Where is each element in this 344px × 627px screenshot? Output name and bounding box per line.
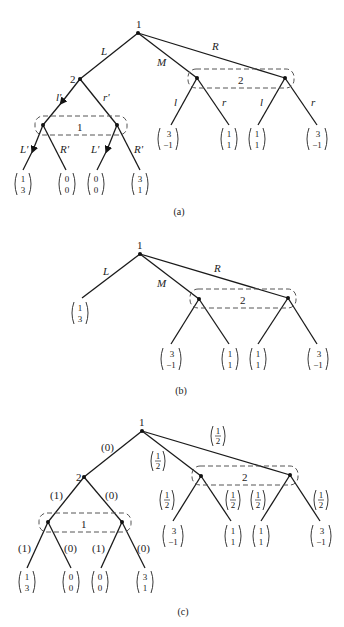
root-player-label: 1 [136, 18, 142, 30]
node-after-l-prime [46, 520, 50, 524]
svg-text:−1: −1 [312, 140, 322, 150]
svg-text:1: 1 [255, 129, 260, 139]
payoff-vector: 1 1 [221, 128, 237, 150]
node-after-l-prime [41, 123, 45, 127]
prob-r-prime: (0) [105, 489, 118, 502]
action-L-prime-2: L' [90, 143, 100, 155]
svg-text:2: 2 [216, 436, 221, 446]
prob-R: 1 2 [211, 426, 225, 446]
svg-text:1: 1 [231, 526, 236, 536]
edge-L [84, 431, 142, 477]
svg-text:0: 0 [65, 174, 70, 184]
svg-text:2: 2 [319, 500, 324, 510]
svg-text:1: 1 [25, 572, 30, 582]
edge-L [82, 254, 140, 298]
action-L: L [102, 265, 109, 277]
prob-L-prime-1: (1) [18, 542, 31, 555]
svg-text:0: 0 [98, 583, 103, 593]
svg-text:1: 1 [319, 490, 324, 500]
payoff-vector: 3 −1 [308, 348, 328, 370]
payoff-vector: 3 1 [132, 173, 148, 195]
edge-M [138, 33, 197, 78]
panel-b: 1 L M R 2 1 3 3 −1 1 1 1 1 3 −1 ( [72, 239, 328, 397]
svg-text:3: 3 [167, 129, 172, 139]
edge-r-2 [288, 298, 317, 344]
payoff-vector: 1 1 [253, 525, 269, 547]
action-l-prime: l' [56, 91, 62, 103]
action-l-2: l [260, 96, 263, 108]
action-R: R [213, 262, 221, 274]
payoff-vector: 3 1 [137, 571, 153, 593]
svg-text:2: 2 [231, 500, 236, 510]
svg-text:1: 1 [156, 451, 161, 461]
prob-M: 1 2 [151, 451, 165, 471]
payoff-vector: 3 −1 [161, 348, 181, 370]
svg-text:1: 1 [165, 490, 170, 500]
edge-L-prime-1-arrow [33, 125, 43, 150]
root-player-label: 1 [139, 416, 145, 428]
svg-text:3: 3 [316, 129, 321, 139]
svg-text:3: 3 [317, 349, 322, 359]
svg-text:3: 3 [21, 185, 26, 195]
node-after-r-prime [115, 123, 119, 127]
info-set-1-label: 1 [77, 121, 83, 133]
prob-L: (0) [101, 441, 114, 454]
svg-text:−1: −1 [166, 360, 176, 370]
action-M: M [156, 277, 167, 289]
info-set-2-label: 2 [238, 74, 244, 86]
caption-c: (c) [177, 606, 188, 618]
svg-text:3: 3 [138, 174, 143, 184]
action-r-2: r [311, 96, 316, 108]
edge-M [142, 431, 201, 476]
svg-text:0: 0 [98, 572, 103, 582]
root-player-label: 1 [137, 239, 143, 251]
payoff-vector: 1 1 [250, 348, 266, 370]
svg-text:0: 0 [69, 583, 74, 593]
svg-text:2: 2 [165, 500, 170, 510]
edge-M [140, 254, 199, 299]
edge-L-prime-2-arrow [107, 125, 117, 150]
player2-label: 2 [70, 73, 76, 85]
action-L: L [100, 45, 107, 57]
svg-text:1: 1 [228, 360, 233, 370]
root-node [136, 31, 140, 35]
edge-r-2 [290, 475, 320, 521]
svg-text:1: 1 [231, 537, 236, 547]
edge-l-1 [173, 476, 201, 521]
payoff-vector: 0 0 [92, 571, 108, 593]
prob-r-2: 1 2 [314, 490, 328, 510]
svg-text:−1: −1 [163, 140, 173, 150]
svg-text:3: 3 [320, 526, 325, 536]
payoff-vector: 3 −1 [158, 128, 178, 150]
action-R-prime-1: R' [59, 143, 70, 155]
payoff-vector: 0 0 [63, 571, 79, 593]
prob-R-prime-1: (0) [64, 542, 77, 555]
svg-text:1: 1 [256, 349, 261, 359]
svg-text:1: 1 [228, 349, 233, 359]
svg-text:−1: −1 [316, 537, 326, 547]
edge-L [80, 33, 138, 79]
prob-l-1: 1 2 [160, 490, 174, 510]
svg-text:1: 1 [138, 185, 143, 195]
svg-text:0: 0 [69, 572, 74, 582]
caption-b: (b) [175, 385, 187, 397]
root-node [140, 429, 144, 433]
edge-l-2 [258, 298, 288, 344]
svg-text:0: 0 [94, 185, 99, 195]
svg-text:0: 0 [65, 185, 70, 195]
svg-text:1: 1 [143, 583, 148, 593]
svg-text:1: 1 [256, 360, 261, 370]
panel-c: 1 2 1 2 (0) 1 2 1 2 (1) (0) (1) (0) (1) … [18, 416, 331, 618]
payoff-vector: 1 3 [19, 571, 35, 593]
edge-l-prime [43, 102, 62, 125]
action-r-prime: r' [103, 91, 110, 103]
action-l-1: l [174, 96, 177, 108]
info-set-2-label: 2 [240, 294, 246, 306]
svg-text:1: 1 [259, 526, 264, 536]
payoff-vector: 1 1 [225, 525, 241, 547]
payoff-vector: 1 1 [222, 348, 238, 370]
payoff-vector: 3 −1 [307, 128, 327, 150]
svg-text:3: 3 [170, 349, 175, 359]
root-node [138, 252, 142, 256]
svg-text:3: 3 [78, 314, 83, 324]
